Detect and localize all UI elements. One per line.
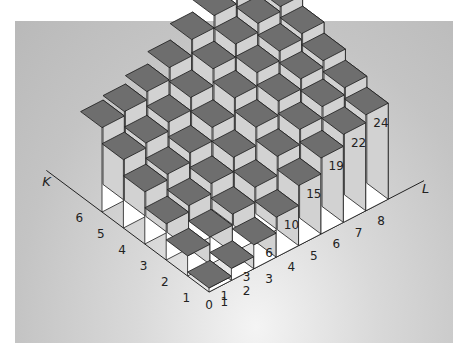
value-label: 22: [351, 136, 366, 150]
value-label: 15: [306, 187, 321, 201]
k-tick-label: 5: [97, 227, 105, 241]
value-label: 6: [265, 246, 273, 260]
k-tick-label: 6: [75, 211, 83, 225]
l-tick-label: 5: [310, 249, 318, 263]
k-tick-label: 4: [118, 243, 126, 257]
l-tick-label: 8: [377, 214, 385, 228]
k-axis-label: K: [42, 174, 52, 189]
l-tick-label: 3: [265, 272, 273, 286]
l-tick-label: 6: [332, 237, 340, 251]
origin-label: 0: [205, 298, 213, 312]
l-tick-label: 4: [288, 260, 296, 274]
l-axis-label: L: [422, 181, 429, 196]
bar3d-chart: 1361015192224123456781234560LK: [0, 0, 471, 360]
l-tick-label: 7: [355, 226, 363, 240]
k-tick-label: 1: [182, 291, 190, 305]
l-tick-label: 2: [243, 284, 251, 298]
value-label: 3: [243, 270, 251, 284]
value-label: 19: [329, 159, 344, 173]
k-tick-label: 2: [161, 275, 169, 289]
value-label: 10: [284, 218, 299, 232]
k-tick-label: 3: [140, 259, 148, 273]
l-tick-label: 1: [220, 295, 228, 309]
value-label: 24: [373, 116, 388, 130]
